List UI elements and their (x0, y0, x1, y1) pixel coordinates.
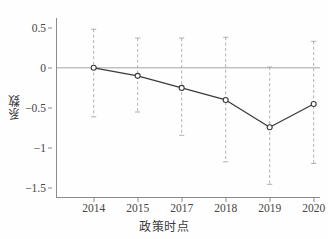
y-tick-label: −1 (34, 142, 46, 154)
y-tick-label: −0.5 (25, 102, 46, 114)
x-tick-label: 2019 (258, 202, 281, 214)
y-tick-mark (48, 108, 52, 109)
plot-inner (57, 18, 320, 197)
y-tick-mark (48, 67, 52, 68)
y-axis-title: 系数 (6, 94, 23, 120)
chart-figure: 0.50−0.5−1−1.5 系数 2014201520172018201920… (0, 0, 328, 239)
x-tick-label: 2014 (82, 202, 105, 214)
x-tick-label: 2018 (214, 202, 237, 214)
y-tick-label: 0 (40, 62, 46, 74)
x-tick-label: 2020 (302, 202, 325, 214)
y-tick-mark (48, 27, 52, 28)
x-axis-title: 政策时点 (0, 217, 328, 234)
y-tick-mark (48, 148, 52, 149)
y-tick-label: −1.5 (25, 182, 46, 194)
x-tick-label: 2015 (126, 202, 149, 214)
y-tick-mark (48, 188, 52, 189)
x-tick-label: 2017 (170, 202, 193, 214)
y-tick-label: 0.5 (32, 22, 46, 34)
x-axis-tick-labels: 201420152017201820192020 (56, 198, 320, 216)
plot-area (56, 18, 320, 198)
